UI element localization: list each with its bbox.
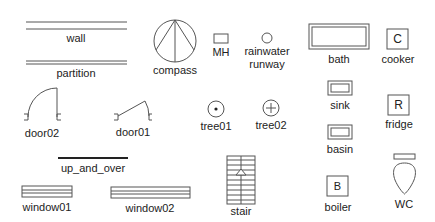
wc-icon [394, 154, 416, 194]
door01-icon [114, 101, 152, 120]
cooker-glyph: C [393, 32, 402, 46]
tree01-icon [208, 101, 224, 117]
cooker-label: cooker [381, 53, 414, 65]
wall-label: wall [66, 32, 86, 44]
basin-label: basin [327, 143, 353, 155]
up-and-over-label: up_and_over [61, 162, 126, 174]
bath-icon [309, 24, 369, 49]
window01-label: window01 [22, 201, 72, 213]
compass-icon [154, 20, 196, 62]
door02-icon [24, 88, 61, 120]
fridge-label: fridge [385, 118, 413, 130]
partition-symbol [26, 61, 127, 64]
stair-icon [227, 156, 255, 204]
window02-label: window02 [125, 202, 175, 214]
window01-icon [22, 186, 72, 197]
door02-label: door02 [25, 127, 59, 139]
manhole-label: MH [212, 46, 229, 58]
tree02-label: tree02 [255, 119, 286, 131]
rainwater-label-line1: rainwater [244, 45, 290, 57]
tree01-label: tree01 [200, 120, 231, 132]
compass-label: compass [153, 64, 198, 76]
tree02-icon [263, 100, 279, 116]
partition-label: partition [56, 67, 95, 79]
boiler-label: boiler [325, 201, 352, 213]
sink-icon [328, 81, 352, 95]
boiler-glyph: B [334, 180, 341, 192]
door01-label: door01 [116, 126, 150, 138]
wall-symbol [26, 22, 127, 29]
window02-icon [111, 187, 190, 198]
manhole-icon [214, 34, 228, 43]
symbols-diagram: C R B wall partition compass MH rainwate… [0, 0, 435, 222]
bath-label: bath [328, 53, 349, 65]
rainwater-label-line2: runway [249, 58, 285, 70]
fridge-glyph: R [394, 98, 403, 112]
basin-icon [328, 125, 352, 139]
wc-label: WC [395, 198, 413, 210]
sink-label: sink [330, 99, 350, 111]
stair-label: stair [231, 205, 252, 217]
rainwater-runway-icon [262, 33, 272, 43]
